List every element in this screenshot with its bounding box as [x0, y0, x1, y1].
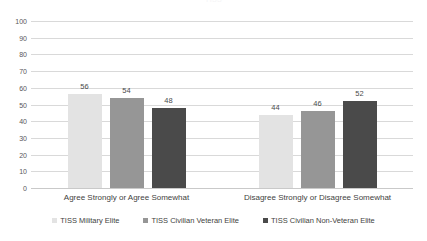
bar [110, 98, 144, 188]
gridline [31, 21, 413, 22]
bar [259, 115, 293, 188]
y-axis-tick-label: 30 [3, 134, 27, 141]
bar-chart: TISS 1009080706050403020100 565448444652… [0, 0, 427, 241]
legend-swatch-icon [263, 218, 268, 223]
bar-value-label: 56 [68, 83, 102, 91]
legend-label: TISS Military Elite [60, 216, 119, 225]
legend-item[interactable]: TISS Civilian Veteran Elite [143, 216, 239, 225]
chart-title: TISS [0, 0, 427, 4]
bar [301, 111, 335, 188]
category-label: Disagree Strongly or Disagree Somewhat [222, 192, 413, 203]
y-axis-tick-label: 60 [3, 84, 27, 91]
bar-value-label: 48 [152, 97, 186, 105]
gridline [31, 38, 413, 39]
gridline [31, 71, 413, 72]
bar [68, 94, 102, 188]
y-axis-tick-label: 0 [3, 185, 27, 192]
y-axis-tick-label: 80 [3, 51, 27, 58]
y-axis-tick-label: 50 [3, 101, 27, 108]
category-axis-labels: Agree Strongly or Agree SomewhatDisagree… [31, 192, 413, 206]
bar [343, 101, 377, 188]
legend-label: TISS Civilian Non-Veteran Elite [271, 216, 375, 225]
bar-value-label: 54 [110, 87, 144, 95]
legend-item[interactable]: TISS Civilian Non-Veteran Elite [263, 216, 375, 225]
y-axis-tick-label: 90 [3, 34, 27, 41]
bar-value-label: 46 [301, 100, 335, 108]
bar-value-label: 44 [259, 104, 293, 112]
legend-item[interactable]: TISS Military Elite [52, 216, 119, 225]
gridline [31, 188, 413, 189]
legend-swatch-icon [143, 218, 148, 223]
bar [152, 108, 186, 188]
category-label: Agree Strongly or Agree Somewhat [31, 192, 222, 203]
y-axis-tick-label: 100 [3, 18, 27, 25]
bar-value-label: 52 [343, 90, 377, 98]
y-axis-tick-labels: 1009080706050403020100 [0, 21, 27, 188]
chart-legend: TISS Military EliteTISS Civilian Veteran… [0, 216, 427, 225]
legend-swatch-icon [52, 218, 57, 223]
y-axis-tick-label: 70 [3, 68, 27, 75]
gridline [31, 54, 413, 55]
plot-area: 565448444652 [31, 21, 413, 188]
legend-label: TISS Civilian Veteran Elite [151, 216, 239, 225]
y-axis-tick-label: 40 [3, 118, 27, 125]
y-axis-tick-label: 10 [3, 168, 27, 175]
y-axis-tick-label: 20 [3, 151, 27, 158]
